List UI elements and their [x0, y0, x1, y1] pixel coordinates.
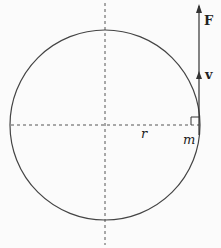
mass-label: m: [183, 133, 195, 146]
diagram-svg: [0, 0, 221, 248]
diagram-canvas: F v r m: [0, 0, 221, 248]
radius-label: r: [141, 127, 147, 140]
force-label: F: [204, 14, 213, 27]
velocity-label: v: [205, 68, 213, 81]
velocity-arrowhead-icon: [196, 71, 202, 79]
right-angle-marker: [191, 117, 199, 125]
force-arrowhead-icon: [196, 4, 202, 13]
